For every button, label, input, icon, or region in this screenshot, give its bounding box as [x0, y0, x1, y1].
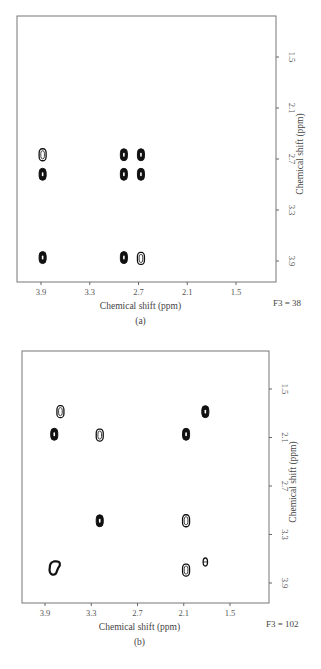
- contour-peak: [120, 149, 127, 161]
- x-tick-label: 3.3: [86, 608, 97, 618]
- x-tick-label: 3.3: [84, 287, 95, 297]
- y-tick-label: 3.3: [280, 529, 290, 540]
- contour-peak: [39, 168, 46, 180]
- y-tick-label: 3.9: [287, 256, 297, 267]
- nmr-figure: 3.93.32.72.11.51.52.12.73.33.9Chemical s…: [0, 0, 321, 669]
- panel-label: (b): [134, 637, 145, 648]
- x-tick-label: 2.7: [133, 287, 144, 297]
- contour-peak: [51, 428, 58, 440]
- contour-peak: [96, 515, 103, 527]
- x-tick-label: 1.5: [231, 287, 242, 297]
- contour-peak: [50, 561, 60, 574]
- panel-label: (a): [135, 316, 146, 327]
- x-tick-label: 2.1: [182, 287, 193, 297]
- contour-peak: [183, 428, 190, 440]
- f3-annotation: F3 = 38: [273, 298, 302, 308]
- contour-peak: [57, 406, 64, 418]
- y-tick-label: 3.3: [287, 205, 297, 216]
- f3-annotation: F3 = 102: [266, 619, 299, 629]
- contour-peak: [120, 168, 127, 180]
- y-axis-label: Chemical shift (ppm): [288, 441, 299, 522]
- contour-peak: [183, 515, 190, 527]
- contour-peak: [202, 406, 209, 418]
- x-tick-label: 2.7: [132, 608, 143, 618]
- contour-peak: [137, 149, 144, 161]
- y-tick-label: 1.5: [287, 52, 297, 63]
- contour-peak: [137, 168, 144, 180]
- x-tick-label: 3.9: [36, 287, 47, 297]
- contour-peak: [39, 149, 46, 161]
- contour-peak: [137, 252, 144, 264]
- x-axis-label: Chemical shift (ppm): [100, 301, 181, 312]
- contour-peak: [96, 429, 103, 441]
- plot-frame: [17, 16, 276, 282]
- x-tick-label: 2.1: [178, 608, 189, 618]
- contour-peak: [203, 558, 207, 566]
- y-tick-label: 3.9: [280, 578, 290, 589]
- contour-peak: [183, 564, 190, 576]
- panel-b-plot: 3.93.32.72.11.51.52.12.73.33.9Chemical s…: [22, 351, 299, 648]
- contour-peak: [120, 252, 127, 264]
- x-tick-label: 3.9: [40, 608, 51, 618]
- panel-a-plot: 3.93.32.72.11.51.52.12.73.33.9Chemical s…: [17, 16, 306, 327]
- y-tick-label: 2.1: [280, 432, 290, 443]
- contour-peak: [39, 252, 46, 264]
- y-tick-label: 1.5: [280, 384, 290, 395]
- y-tick-label: 2.1: [287, 103, 297, 114]
- y-axis-label: Chemical shift (ppm): [295, 113, 306, 194]
- x-tick-label: 1.5: [225, 608, 236, 618]
- x-axis-label: Chemical shift (ppm): [99, 622, 180, 633]
